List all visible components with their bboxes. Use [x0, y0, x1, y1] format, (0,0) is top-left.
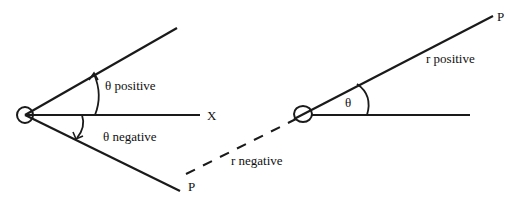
point-p-label-right: P	[497, 9, 504, 24]
x-axis-label: X	[207, 108, 217, 123]
point-p-label-left: P	[188, 179, 195, 194]
arc-theta-negative	[77, 115, 83, 138]
arc-theta-positive	[94, 74, 99, 115]
ray-theta-negative	[25, 115, 180, 191]
r-negative-label: r negative	[231, 153, 283, 168]
right-panel: θ r positive P	[294, 9, 504, 122]
r-positive-label: r positive	[426, 51, 475, 66]
ray-r-positive	[294, 16, 493, 119]
theta-negative-label: θ negative	[103, 129, 157, 144]
polar-angle-diagram: θ positive θ negative X P r negative θ r…	[0, 0, 519, 207]
theta-label: θ	[345, 95, 351, 110]
ray-theta-positive	[25, 28, 177, 115]
arc-theta	[357, 84, 369, 115]
theta-positive-label: θ positive	[105, 78, 156, 93]
left-panel: θ positive θ negative X P	[17, 28, 217, 194]
